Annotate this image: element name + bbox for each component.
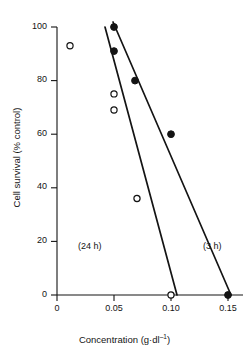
annotation-24h: (24 h) <box>78 241 102 251</box>
axis-lines <box>57 27 243 295</box>
x-tick-label-010: 0.10 <box>156 303 186 313</box>
y-tick-label-80: 80 <box>14 74 47 84</box>
y-tick-marks <box>51 27 57 295</box>
y-tick-label-20: 20 <box>14 235 47 245</box>
x-axis-title-prefix: Concentration (g·dl <box>79 334 160 345</box>
point-24h-2 <box>111 91 117 97</box>
point-3h-3 <box>132 77 139 84</box>
x-tick-label-015: 0.15 <box>213 303 243 313</box>
point-24h-3 <box>111 107 117 113</box>
y-tick-label-100: 100 <box>14 21 47 31</box>
x-axis-title: Concentration (g·dl–1) <box>0 333 249 345</box>
point-24h-1 <box>67 43 73 49</box>
x-tick-label-005: 0.05 <box>99 303 129 313</box>
fit-line-3h <box>113 22 231 295</box>
series-3h-points <box>111 24 232 299</box>
y-axis-title: Cell survival (% control) <box>11 88 22 228</box>
y-tick-label-0: 0 <box>14 289 47 299</box>
point-3h-5 <box>225 292 232 299</box>
point-3h-1 <box>111 24 118 31</box>
chart-figure: 100 80 60 40 20 0 0 0.05 0.10 0.15 Conce… <box>0 0 249 354</box>
annotation-3h: (3 h) <box>203 241 222 251</box>
point-24h-4 <box>134 195 140 201</box>
x-tick-marks <box>57 295 228 301</box>
point-3h-4 <box>168 131 175 138</box>
series-24h-points <box>67 43 174 299</box>
x-axis-title-suffix: ) <box>167 334 170 345</box>
plot-area <box>0 0 249 354</box>
point-24h-5 <box>168 292 174 298</box>
x-tick-label-0: 0 <box>42 303 72 313</box>
fit-line-24h <box>105 27 177 295</box>
x-axis-title-exponent: –1 <box>160 333 167 340</box>
point-3h-2 <box>111 48 118 55</box>
